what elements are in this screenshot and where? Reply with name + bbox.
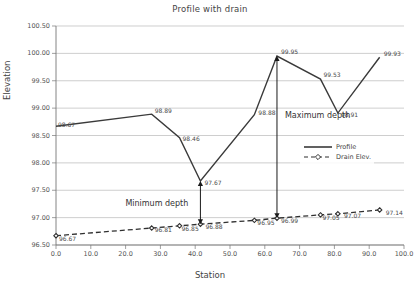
legend-item-label: Profile	[336, 143, 356, 151]
legend-item-label: Drain Elev.	[336, 153, 371, 161]
data-point-label: 98.46	[183, 136, 200, 142]
data-point-label: 97.05	[322, 215, 339, 221]
data-point-label: 97.67	[204, 180, 221, 186]
annotation-arrow-head-up	[198, 181, 203, 186]
legend-dashed-line-icon	[303, 152, 333, 162]
legend-item-1[interactable]: Profile	[303, 142, 371, 152]
data-point-label: 96.81	[155, 227, 172, 233]
data-point-label: 96.85	[182, 226, 199, 232]
data-point-label: 97.07	[344, 213, 361, 219]
legend-solid-line-icon	[303, 142, 333, 152]
data-point-marker	[54, 233, 58, 237]
annotation-label: Minimum depth	[125, 199, 188, 208]
chart-container: Profile with drain Elevation Station 96.…	[0, 0, 420, 288]
data-point-marker	[377, 208, 381, 212]
data-point-label: 99.95	[281, 49, 298, 55]
data-point-marker	[150, 226, 154, 230]
data-point-label: 97.14	[386, 210, 403, 216]
data-point-label: 96.88	[205, 224, 222, 230]
data-point-label: 98.67	[58, 122, 75, 128]
data-point-label: 96.67	[59, 236, 76, 242]
data-point-label: 99.93	[384, 51, 401, 57]
data-point-label: 96.99	[281, 218, 298, 224]
data-point-label: 99.53	[323, 72, 340, 78]
annotation-label: Maximum depth	[285, 111, 350, 120]
chart-legend: ProfileDrain Elev.	[300, 140, 374, 164]
data-point-label: 96.95	[257, 220, 274, 226]
legend-item-2[interactable]: Drain Elev.	[303, 152, 371, 162]
data-point-label: 98.88	[258, 110, 275, 116]
data-point-label: 98.89	[155, 108, 172, 114]
data-point-marker	[252, 218, 256, 222]
